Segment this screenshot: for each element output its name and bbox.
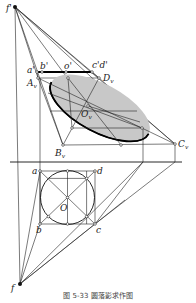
label-cd-prime: c'd': [92, 60, 108, 70]
label-c: c: [96, 225, 101, 235]
label-f: f: [10, 283, 16, 293]
label-D-v: Dv: [102, 73, 114, 84]
vanishing-point-f-prime: [13, 5, 17, 9]
label-f-prime: f': [5, 3, 12, 13]
shadow-diagram: f' f a' b' o' c'd' Av Dv Ov Bv Cv a d b …: [0, 0, 196, 303]
label-d: d: [97, 166, 103, 176]
label-a: a: [32, 166, 37, 176]
label-b: b: [36, 225, 42, 235]
label-O: O: [60, 203, 68, 213]
figure-caption: 图 5-33 圆落影求作图: [63, 291, 132, 300]
label-a-prime: a': [27, 65, 35, 75]
rays-from-f: [20, 162, 143, 284]
label-b-prime: b': [40, 61, 48, 71]
label-o-prime: o': [64, 61, 72, 71]
label-A-v: Av: [26, 78, 38, 89]
label-C-v: Cv: [178, 139, 189, 150]
vanishing-vertical-line: [15, 7, 20, 284]
vanishing-point-f: [18, 282, 22, 286]
label-B-v: Bv: [54, 148, 66, 159]
